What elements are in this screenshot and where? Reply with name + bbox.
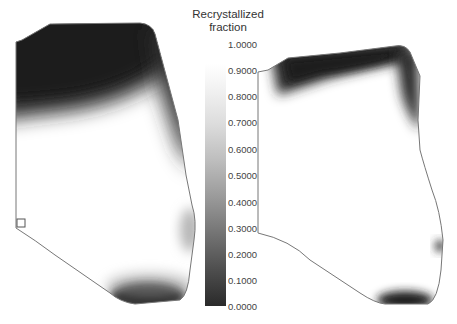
recrystallization-figure: Recrystallized fraction 1.0000 0.9000 0.…	[0, 0, 457, 324]
left-specimen	[0, 0, 210, 324]
colorbar-tick: 0.6000	[228, 145, 257, 155]
right-specimen	[250, 0, 457, 324]
colorbar-tick: 0.8000	[228, 92, 257, 102]
colorbar-title: Recrystallized fraction	[178, 8, 278, 34]
colorbar-tick: 0.1000	[228, 276, 257, 286]
colorbar-tick: 0.2000	[228, 250, 257, 260]
colorbar-tick: 0.5000	[228, 171, 257, 181]
colorbar-gradient	[205, 64, 226, 306]
colorbar-title-line2: fraction	[178, 21, 278, 34]
colorbar-tick: 0.0000	[228, 302, 257, 312]
colorbar-tick: 0.4000	[228, 198, 257, 208]
colorbar-tick: 0.3000	[228, 224, 257, 234]
colorbar-tick: 0.7000	[228, 118, 257, 128]
colorbar-tick: 1.0000	[228, 40, 257, 50]
colorbar-title-line1: Recrystallized	[178, 8, 278, 21]
colorbar-tick: 0.9000	[228, 66, 257, 76]
